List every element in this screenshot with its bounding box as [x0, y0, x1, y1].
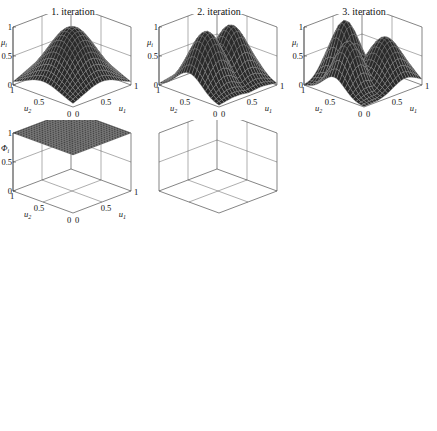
y-axis-label: u2 [24, 209, 31, 221]
x-tick-label: 0 [366, 109, 370, 119]
x-tick-label: 0 [75, 109, 79, 119]
y-tick-label: 1 [156, 85, 160, 95]
z-axis-label: μi [291, 37, 298, 49]
surface-plot-r2-c2 [146, 120, 292, 226]
x-tick-label: 0.5 [101, 97, 112, 107]
y-tick-label: 0 [358, 109, 362, 119]
surface-mesh [159, 25, 277, 105]
y-tick-label: 0.5 [34, 97, 45, 107]
y-tick-label: 0.5 [34, 203, 45, 213]
surface-plot-r1-c1: 00.51μi10.5000.51u2u1 [0, 14, 146, 120]
z-tick-label: 1 [8, 22, 12, 32]
y-axis-label: u2 [170, 103, 177, 115]
x-tick-label: 1 [134, 187, 138, 197]
surface-plot-r1-c3: 00.51μi10.5000.51u2u1 [291, 14, 437, 120]
surface-plot-r1-c2: 00.51μi10.5000.51u2u1 [146, 14, 292, 120]
x-tick-label: 0 [221, 109, 225, 119]
y-tick-label: 0 [67, 109, 71, 119]
y-tick-label: 0.5 [180, 97, 191, 107]
y-tick-label: 1 [10, 85, 14, 95]
x-tick-label: 0.5 [392, 97, 403, 107]
x-axis-label: u1 [119, 209, 126, 221]
y-axis-label: u2 [24, 103, 31, 115]
z-tick-label: 0.5 [147, 51, 158, 61]
x-tick-label: 0.5 [247, 97, 258, 107]
y-tick-label: 0.5 [325, 97, 336, 107]
z-axis-label: μi [146, 37, 153, 49]
surface-plot-r2-c1: 00.51Φi10.5000.51u2u1 [0, 120, 146, 226]
figure: 1. iteration 2. iteration 3. iteration 0… [0, 0, 437, 431]
x-tick-label: 1 [134, 81, 138, 91]
x-tick-label: 1 [280, 81, 284, 91]
z-tick-label: 0.5 [1, 157, 12, 167]
z-tick-label: 0.5 [292, 51, 303, 61]
x-tick-label: 0.5 [101, 203, 112, 213]
z-tick-label: 1 [154, 22, 158, 32]
y-axis-label: u2 [315, 103, 322, 115]
z-tick-label: 0.5 [1, 51, 12, 61]
z-tick-label: 1 [299, 22, 303, 32]
y-tick-label: 1 [301, 85, 305, 95]
x-axis-label: u1 [410, 103, 417, 115]
x-tick-label: 1 [425, 81, 429, 91]
x-tick-label: 0 [75, 215, 79, 225]
z-axis-label: μi [0, 37, 7, 49]
x-axis-label: u1 [119, 103, 126, 115]
z-axis-label: Φi [1, 143, 9, 155]
z-tick-label: 1 [8, 128, 12, 138]
x-axis-label: u1 [265, 103, 272, 115]
surface-mesh [13, 120, 131, 155]
y-tick-label: 1 [10, 191, 14, 201]
y-tick-label: 0 [67, 215, 71, 225]
y-tick-label: 0 [213, 109, 217, 119]
surface-mesh [304, 20, 422, 106]
